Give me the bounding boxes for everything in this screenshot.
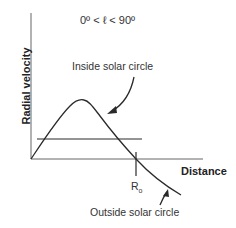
inside-arrowhead-icon — [107, 106, 117, 114]
diagram-title: 0º < ℓ < 90º — [80, 14, 135, 26]
r0-main: R — [131, 180, 139, 192]
velocity-curve — [31, 100, 181, 195]
r0-label: Ro — [131, 180, 143, 194]
y-axis-label: Radial velocity — [20, 38, 32, 134]
r0-sub: o — [139, 187, 143, 194]
inside-arrow — [112, 77, 134, 111]
outside-arrowhead-icon — [163, 189, 169, 197]
x-axis-label: Distance — [181, 165, 227, 177]
outside-solar-circle-label: Outside solar circle — [90, 206, 179, 218]
radial-velocity-diagram — [0, 0, 236, 228]
inside-solar-circle-label: Inside solar circle — [72, 60, 153, 72]
